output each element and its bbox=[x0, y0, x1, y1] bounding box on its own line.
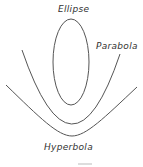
hyperbola-label: Hyperbola bbox=[44, 142, 93, 152]
ellipse-curve bbox=[53, 19, 89, 105]
hyperbola-curve bbox=[6, 85, 137, 136]
parabola-label: Parabola bbox=[96, 41, 138, 51]
ellipse-label: Ellipse bbox=[58, 4, 89, 14]
conic-sections-diagram: Ellipse Parabola Hyperbola bbox=[0, 0, 143, 167]
parabola-curve bbox=[22, 50, 120, 124]
